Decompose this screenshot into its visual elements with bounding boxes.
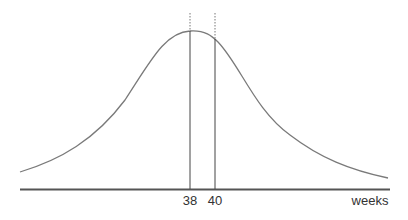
x-axis-label: weeks [351,193,389,208]
bell-curve-diagram: 38 40 weeks [0,0,408,220]
marker-40-label: 40 [208,193,222,208]
distribution-curve [20,31,388,178]
marker-38-label: 38 [183,193,197,208]
